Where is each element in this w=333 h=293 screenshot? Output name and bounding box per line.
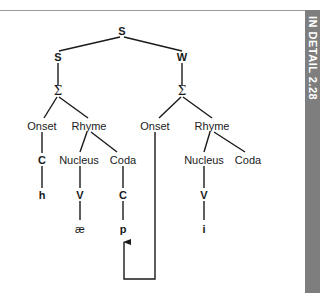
coda-consonant-1: C: [119, 189, 127, 201]
phone-p: p: [120, 223, 127, 235]
nucleus-node-2: Nucleus: [184, 154, 224, 166]
coda-node-2: Coda: [235, 154, 262, 166]
foot-node-weak: W: [177, 51, 188, 63]
phone-h: h: [39, 189, 46, 201]
vowel-slot-2: V: [200, 189, 208, 201]
vowel-slot-1: V: [76, 189, 84, 201]
rhyme-node-2: Rhyme: [195, 120, 230, 132]
coda-node-1: Coda: [110, 154, 137, 166]
syllable-node-2: Σ: [178, 84, 186, 98]
phone-ae: æ: [75, 223, 85, 235]
nucleus-node-1: Nucleus: [59, 154, 99, 166]
phone-i: i: [202, 223, 205, 235]
rhyme-node-1: Rhyme: [72, 120, 107, 132]
onset-consonant-1: C: [38, 154, 46, 166]
onset-node-1: Onset: [27, 120, 56, 132]
foot-node-strong: S: [54, 51, 61, 63]
onset-node-2: Onset: [140, 120, 169, 132]
syllable-tree-diagram: S S W Σ Σ Onset Rhyme Onset Rhyme C Nucl…: [0, 0, 305, 293]
in-detail-label: IN DETAIL 2.28: [305, 10, 320, 140]
root-node: S: [118, 25, 125, 37]
syllable-node-1: Σ: [54, 84, 62, 98]
